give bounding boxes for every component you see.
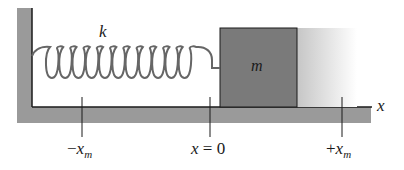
x-axis-label: x xyxy=(377,96,385,116)
equilibrium-label: x = 0 xyxy=(191,139,225,159)
mass-label: m xyxy=(251,57,263,75)
x-symbol: x xyxy=(77,139,85,158)
m-subscript: m xyxy=(84,148,92,160)
spring xyxy=(32,46,220,78)
plus-sign: + xyxy=(326,139,336,158)
minus-sign: − xyxy=(67,139,77,158)
pos-amplitude-label: +xm xyxy=(326,139,351,160)
ghost-block xyxy=(297,28,357,107)
spring-constant-label: k xyxy=(99,22,107,42)
m-subscript: m xyxy=(343,148,351,160)
neg-amplitude-label: −xm xyxy=(67,139,92,160)
x-symbol: x xyxy=(336,139,344,158)
